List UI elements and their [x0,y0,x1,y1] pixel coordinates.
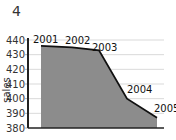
y-tick-label: 430 [6,49,25,60]
area-chart: 3803904004104204304402001200220032004200… [0,0,176,140]
data-label: 2003 [92,42,117,53]
data-label: 2001 [33,34,58,45]
data-label: 2005 [154,103,176,114]
y-tick-label: 440 [6,35,25,46]
data-label: 2004 [127,84,152,95]
y-tick-label: 420 [6,64,25,75]
y-axis-label: sales [1,77,12,102]
y-tick-label: 380 [6,123,25,134]
data-label: 2002 [65,35,90,46]
y-tick-label: 390 [6,108,25,119]
